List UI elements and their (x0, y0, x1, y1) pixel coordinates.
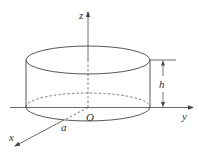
diagram-canvas: z y x O h a (0, 0, 199, 154)
bottom-ellipse-back (26, 93, 150, 107)
x-axis-hidden (62, 108, 88, 122)
origin-label: O (86, 111, 94, 123)
x-axis (15, 121, 62, 146)
cylinder-diagram: z y x O h a (0, 0, 199, 154)
radius-label: a (61, 121, 67, 133)
y-axis-label: y (181, 110, 187, 122)
x-axis-label: x (8, 131, 14, 143)
height-label: h (159, 78, 165, 90)
z-axis-label: z (78, 9, 84, 21)
